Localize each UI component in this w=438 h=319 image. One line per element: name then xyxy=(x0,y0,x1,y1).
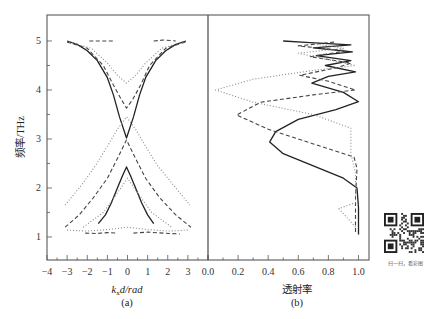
qr-caption: 扫一扫，看彩图 xyxy=(378,259,433,266)
x-tick-label-a: −4 xyxy=(42,266,53,277)
panel-b-transmission-plot xyxy=(216,41,359,235)
y-tick-label: 5 xyxy=(36,35,41,46)
panel-a-label: (a) xyxy=(121,297,133,309)
series-dashed-upper-band xyxy=(67,42,186,108)
x-tick-label-a: −3 xyxy=(62,266,73,277)
series-floor-dotted xyxy=(67,227,188,231)
xlabel-rest: d/rad xyxy=(120,284,144,295)
x-axis-title-a: kxd/rad xyxy=(112,284,144,297)
y-tick-label: 1 xyxy=(36,231,41,242)
series-solid-lower-band xyxy=(98,167,153,224)
qr-code-block: 扫一扫，看彩图 xyxy=(378,213,433,266)
qr-code-icon[interactable] xyxy=(384,213,424,253)
x-tick-label-b: 0.6 xyxy=(292,266,305,277)
figure: −4−3−2−101230.00.20.40.60.81.012345 频率/T… xyxy=(0,0,438,319)
y-axis-title: 频率/THz xyxy=(14,116,26,158)
x-tick-label-b: 0.4 xyxy=(262,266,275,277)
x-tick-label-a: 3 xyxy=(185,266,190,277)
x-tick-label-b: 0.8 xyxy=(322,266,335,277)
panel-b-label: (b) xyxy=(291,297,304,309)
series-dotted-crossing xyxy=(83,178,172,227)
series-solid-upper-band xyxy=(67,41,186,138)
series-floor-dashed-right xyxy=(134,232,180,234)
x-tick-label-a: −2 xyxy=(82,266,93,277)
x-axis-title-b: 透射率 xyxy=(282,283,312,295)
y-tick-label: 2 xyxy=(36,182,41,193)
series-dotted-transmission xyxy=(216,43,356,227)
x-tick-label-b: 0.0 xyxy=(202,266,215,277)
series-top-flat-right xyxy=(154,40,176,41)
x-tick-label-b: 0.2 xyxy=(232,266,245,277)
x-tick-label-a: −1 xyxy=(102,266,113,277)
series-dashed-transmission xyxy=(237,42,357,232)
x-tick-label-b: 1.0 xyxy=(352,266,365,277)
series-dashed-lower-band xyxy=(65,140,191,227)
series-floor-dashed-left xyxy=(85,233,117,234)
panel-a-band-diagram xyxy=(65,40,191,234)
x-tick-label-a: 2 xyxy=(165,266,170,277)
y-tick-label: 3 xyxy=(36,133,41,144)
series-dotted-lower-band xyxy=(65,117,190,205)
y-tick-label: 4 xyxy=(36,84,41,95)
x-tick-label-a: 1 xyxy=(145,266,150,277)
series-solid-transmission xyxy=(270,41,359,235)
x-tick-label-a: 0 xyxy=(125,266,130,277)
